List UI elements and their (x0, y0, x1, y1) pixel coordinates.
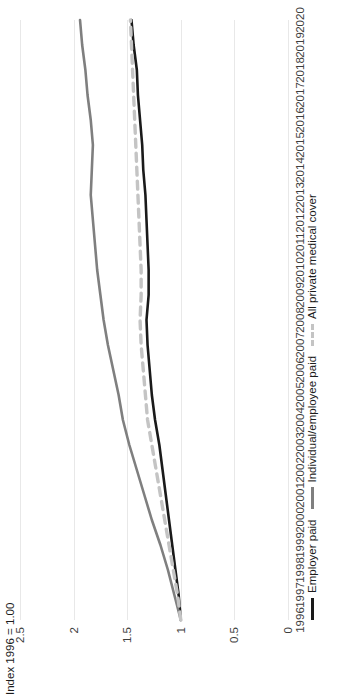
x-tick-label: 1997 (294, 582, 306, 608)
x-tick-label: 2003 (294, 432, 306, 458)
legend-label: All private medical cover (306, 194, 318, 319)
legend-item[interactable]: Individual/employee paid (306, 356, 318, 510)
x-tick-label: 2020 (294, 7, 306, 33)
x-tick-label: 2015 (294, 132, 306, 158)
x-tick-label: 1999 (294, 532, 306, 558)
x-tick-label: 2013 (294, 182, 306, 208)
x-tick-label: 2000 (294, 507, 306, 533)
legend-label: Employer paid (306, 519, 318, 593)
y-tick-label: 2 (68, 627, 80, 633)
x-tick-label: 2014 (294, 157, 306, 183)
x-tick-label: 2006 (294, 357, 306, 383)
legend-item[interactable]: All private medical cover (306, 194, 318, 346)
legend-swatch-icon (311, 598, 314, 620)
x-tick-label: 2008 (294, 307, 306, 333)
chart-legend: Employer paidIndividual/employee paidAll… (306, 194, 318, 620)
y-tick-label: 1 (175, 627, 187, 633)
y-tick-label: 1.5 (121, 627, 133, 643)
legend-label: Individual/employee paid (306, 356, 318, 483)
x-tick-label: 2001 (294, 482, 306, 508)
x-tick-label: 2011 (294, 233, 306, 258)
x-tick-label: 2019 (294, 32, 306, 58)
rotated-figure-wrapper: Index 1996 = 1.00 00.511.522.5 199619971… (0, 0, 337, 699)
x-tick-label: 2017 (294, 82, 306, 108)
legend-swatch-icon (311, 324, 314, 346)
x-tick-label: 2002 (294, 457, 306, 483)
x-tick-label: 2012 (294, 207, 306, 233)
x-tick-label: 2007 (294, 332, 306, 358)
x-tick-label: 2009 (294, 282, 306, 308)
y-tick-label: 0 (282, 627, 294, 633)
x-tick-label: 2018 (294, 57, 306, 83)
x-tick-label: 1998 (294, 557, 306, 583)
plot-area: 00.511.522.5 199619971998199920002001200… (20, 20, 288, 620)
gridline (288, 20, 289, 620)
x-tick-label: 1996 (294, 607, 306, 633)
y-axis-title: Index 1996 = 1.00 (4, 603, 16, 695)
chart-figure: Index 1996 = 1.00 00.511.522.5 199619971… (0, 0, 337, 699)
series-lines (20, 20, 288, 620)
legend-item[interactable]: Employer paid (306, 519, 318, 620)
x-tick-label: 2005 (294, 382, 306, 408)
x-tick-label: 2004 (294, 407, 306, 433)
y-tick-label: 2.5 (14, 627, 26, 643)
x-tick-label: 2010 (294, 257, 306, 283)
x-tick-label: 2016 (294, 107, 306, 133)
y-tick-label: 0.5 (228, 627, 240, 643)
legend-swatch-icon (311, 487, 314, 509)
